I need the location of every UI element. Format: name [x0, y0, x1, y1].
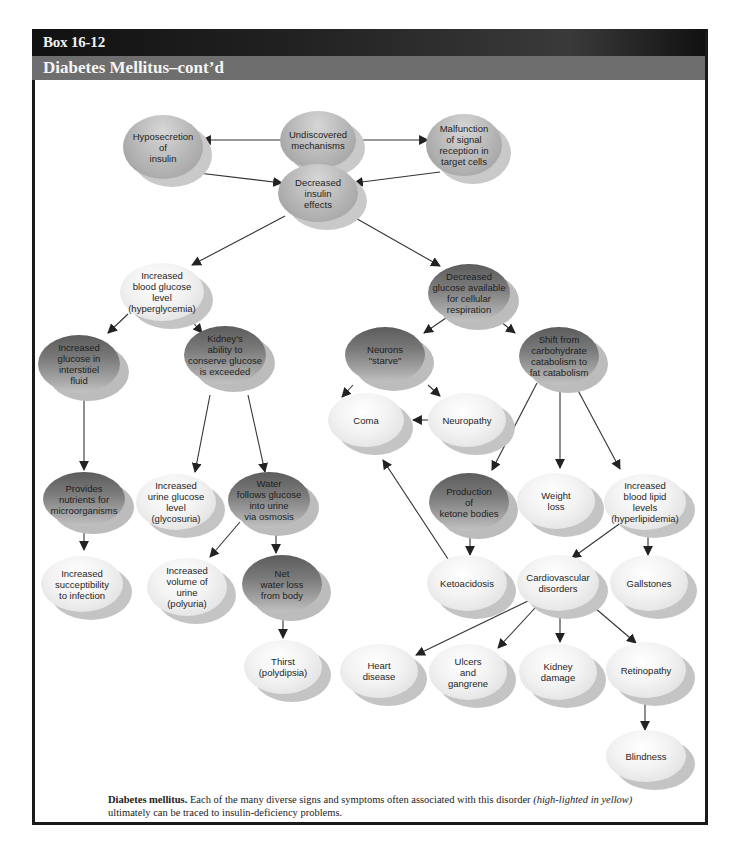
- node-undiscovered-mechanisms: Undiscovered mechanisms: [280, 111, 356, 169]
- node-hyperlipidemia: Increased blood lipid levels (hyperlipid…: [604, 474, 686, 530]
- node-kidney-damage: Kidney damage: [519, 644, 597, 700]
- node-neurons-starve: Neurons "starve": [345, 327, 425, 383]
- node-cardiovascular-disorders: Cardiovascular disorders: [517, 555, 599, 611]
- node-gallstones: Gallstones: [610, 555, 688, 611]
- node-net-water-loss: Net water loss from body: [242, 555, 322, 613]
- node-decreased-glucose-available: Decreased glucose available for cellular…: [428, 264, 510, 322]
- node-weight-loss: Weight loss: [517, 473, 595, 529]
- node-decreased-insulin-effects: Decreased insulin effects: [278, 164, 358, 222]
- node-ketoacidosis: Ketoacidosis: [427, 555, 507, 611]
- node-hyposecretion: Hyposecretion of insulin: [123, 115, 203, 179]
- node-susceptibility-infection: Increased succeptibility to infection: [41, 556, 123, 612]
- node-provides-nutrients: Provides nutrients for microorganisms: [43, 472, 125, 526]
- caption-italic: (high-lighted in yellow): [533, 794, 632, 805]
- caption-text-1: Each of the many diverse signs and sympt…: [187, 794, 533, 805]
- node-shift-to-fat-catabolism: Shift from carbohydrate catabolism to fa…: [519, 327, 599, 385]
- node-water-follows-glucose: Water follows glucose into urine via osm…: [228, 472, 310, 528]
- node-ketone-bodies: Production of ketone bodies: [429, 473, 509, 531]
- node-malfunction-signal: Malfunction of signal reception in targe…: [426, 114, 502, 176]
- node-neuropathy: Neuropathy: [428, 393, 506, 447]
- node-coma: Coma: [328, 393, 404, 447]
- caption-text-2: ultimately can be traced to insulin-defi…: [108, 807, 342, 818]
- node-polyuria: Increased volume of urine (polyuria): [147, 558, 227, 616]
- node-retinopathy: Retinopathy: [606, 642, 686, 698]
- node-ulcers-gangrene: Ulcers and gangrene: [429, 644, 507, 700]
- figure-caption: Diabetes mellitus. Each of the many dive…: [108, 793, 648, 819]
- node-interstitial-glucose: Increased glucose in interstitiel fluid: [38, 335, 120, 393]
- node-heart-disease: Heart disease: [340, 644, 418, 698]
- node-kidney-ability-exceeded: Kidney's ability to conserve glucose is …: [184, 326, 266, 384]
- node-glycosuria: Increased urine glucose level (glycosuri…: [136, 474, 216, 530]
- node-hyperglycemia: Increased blood glucose level (hyperglyc…: [120, 263, 204, 321]
- node-blindness: Blindness: [606, 730, 686, 782]
- node-thirst: Thirst (polydipsia): [244, 640, 322, 694]
- caption-title: Diabetes mellitus.: [108, 794, 187, 805]
